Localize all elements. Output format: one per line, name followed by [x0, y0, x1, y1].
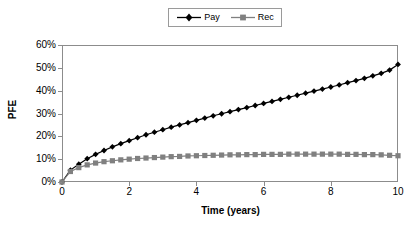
data-point-marker — [168, 124, 174, 130]
data-point-marker — [379, 152, 384, 157]
data-point-marker — [311, 152, 316, 157]
data-point-marker — [387, 153, 392, 158]
y-axis-tick-mark — [58, 182, 62, 183]
data-point-marker — [143, 132, 149, 138]
y-axis-tick-mark — [58, 45, 62, 46]
data-point-marker — [126, 138, 132, 144]
data-point-marker — [362, 152, 367, 157]
data-point-marker — [345, 152, 350, 157]
data-point-marker — [227, 109, 233, 115]
legend-label-pay: Pay — [204, 13, 220, 22]
data-point-marker — [320, 86, 326, 92]
data-point-marker — [236, 107, 242, 113]
data-point-marker — [101, 159, 106, 164]
x-axis-tick-label: 0 — [47, 187, 77, 197]
data-point-marker — [328, 152, 333, 157]
data-point-marker — [370, 152, 375, 157]
data-point-marker — [286, 94, 292, 100]
data-point-marker — [127, 157, 132, 162]
series-rec — [59, 152, 400, 185]
data-point-marker — [68, 169, 73, 174]
data-point-marker — [253, 152, 258, 157]
data-point-marker — [219, 111, 225, 117]
data-point-marker — [227, 152, 232, 157]
data-point-marker — [118, 157, 123, 162]
data-point-marker — [110, 158, 115, 163]
series-pay — [59, 62, 401, 185]
plot-series-layer — [62, 45, 398, 182]
data-point-marker — [236, 152, 241, 157]
data-point-marker — [177, 122, 183, 128]
data-point-marker — [353, 78, 359, 84]
y-axis-tick-mark — [58, 68, 62, 69]
chart-legend: Pay Rec — [168, 8, 282, 27]
y-axis-tick-label: 10% — [16, 154, 56, 164]
x-axis-tick-mark — [331, 182, 332, 186]
data-point-marker — [152, 155, 157, 160]
data-point-marker — [194, 153, 199, 158]
x-axis-tick-mark — [264, 182, 265, 186]
x-axis-tick-label: 4 — [181, 187, 211, 197]
y-axis-tick-mark — [58, 91, 62, 92]
data-point-marker — [110, 144, 116, 150]
data-point-marker — [101, 148, 107, 154]
x-axis-tick-label: 2 — [114, 187, 144, 197]
data-point-marker — [194, 117, 200, 123]
data-point-marker — [202, 153, 207, 158]
x-axis-tick-label: 8 — [316, 187, 346, 197]
data-point-marker — [210, 113, 216, 119]
y-axis-tick-mark — [58, 136, 62, 137]
x-axis-title: Time (years) — [62, 205, 399, 216]
data-point-marker — [252, 103, 258, 109]
data-point-marker — [185, 153, 190, 158]
data-point-marker — [295, 152, 300, 157]
data-point-marker — [93, 160, 98, 165]
data-point-marker — [160, 155, 165, 160]
data-point-marker — [143, 155, 148, 160]
y-axis-tick-mark — [58, 114, 62, 115]
data-point-marker — [278, 152, 283, 157]
data-point-marker — [337, 152, 342, 157]
data-point-marker — [286, 152, 291, 157]
data-point-marker — [118, 141, 124, 147]
data-point-marker — [311, 88, 317, 94]
data-point-marker — [303, 152, 308, 157]
chart-figure: Pay Rec PFE 0%10%20%30%40%50%60% 0246810… — [0, 0, 413, 231]
data-point-marker — [345, 80, 351, 86]
legend-entry-pay: Pay — [176, 12, 220, 23]
data-point-marker — [378, 70, 384, 76]
data-point-marker — [261, 101, 267, 107]
data-point-marker — [202, 115, 208, 121]
data-point-marker — [303, 90, 309, 96]
legend-marker-rec-icon — [230, 12, 256, 23]
data-point-marker — [76, 165, 81, 170]
data-point-marker — [177, 154, 182, 159]
data-point-marker — [294, 92, 300, 98]
data-point-marker — [336, 82, 342, 88]
y-axis-tick-label: 0% — [16, 177, 56, 187]
data-point-marker — [278, 96, 284, 102]
x-axis-tick-mark — [129, 182, 130, 186]
legend-label-rec: Rec — [258, 13, 274, 22]
data-point-marker — [353, 152, 358, 157]
data-point-marker — [395, 153, 400, 158]
data-point-marker — [244, 152, 249, 157]
data-point-marker — [185, 120, 191, 126]
data-point-marker — [244, 105, 250, 111]
data-point-marker — [160, 127, 166, 133]
data-point-marker — [135, 156, 140, 161]
data-point-marker — [269, 98, 275, 104]
data-point-marker — [219, 152, 224, 157]
x-axis-tick-label: 6 — [249, 187, 279, 197]
x-axis-tick-label: 10 — [383, 187, 413, 197]
data-point-marker — [93, 151, 99, 157]
data-point-marker — [135, 135, 141, 141]
data-point-marker — [269, 152, 274, 157]
x-axis-tick-mark — [196, 182, 197, 186]
y-axis-tick-label: 20% — [16, 131, 56, 141]
legend-entry-rec: Rec — [230, 12, 274, 23]
data-point-marker — [152, 129, 158, 135]
data-point-marker — [85, 162, 90, 167]
data-point-marker — [169, 154, 174, 159]
y-axis-tick-label: 30% — [16, 109, 56, 119]
